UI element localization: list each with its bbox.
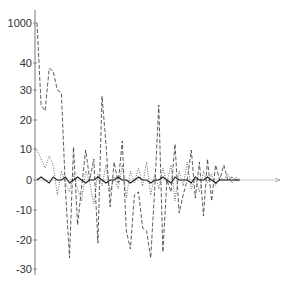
y-tick-label: 30: [20, 84, 32, 96]
y-tick-label: -20: [16, 234, 32, 246]
y-tick-label: 0: [26, 174, 32, 186]
y-tick-label: 20: [20, 114, 32, 126]
y-tick-label: -10: [16, 204, 32, 216]
series-dashed: [37, 23, 240, 258]
y-axis-labels: 1000403020100-10-20-30: [8, 17, 37, 275]
series-group: [37, 23, 240, 258]
y-tick-label: 10: [20, 143, 32, 155]
line-chart: 1000403020100-10-20-30: [0, 0, 295, 289]
y-tick-label: -30: [16, 263, 32, 275]
y-tick-label: 1000: [8, 17, 32, 29]
y-tick-label: 40: [20, 57, 32, 69]
